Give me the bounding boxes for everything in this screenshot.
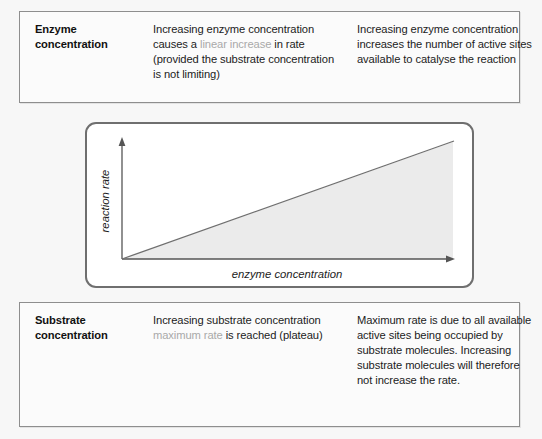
enzyme-title-line-2: concentration bbox=[35, 37, 145, 52]
substrate-concentration-panel: Substrate concentration Increasing subst… bbox=[19, 302, 520, 427]
enzyme-title-line-1: Enzyme bbox=[35, 22, 145, 37]
substrate-title-line-1: Substrate bbox=[35, 313, 145, 328]
enzyme-description-right: Increasing enzyme concentration increase… bbox=[357, 22, 532, 67]
substrate-desc-before: Increasing substrate concentration bbox=[153, 314, 321, 326]
enzyme-description-middle: Increasing enzyme concentration causes a… bbox=[153, 22, 343, 82]
chart-x-axis-label: enzyme concentration bbox=[232, 268, 343, 280]
y-axis-arrow-icon bbox=[119, 137, 126, 146]
panel-inner: Substrate concentration Increasing subst… bbox=[20, 303, 519, 426]
substrate-title-line-2: concentration bbox=[35, 328, 145, 343]
substrate-desc-highlight: maximum rate bbox=[153, 329, 223, 341]
substrate-description-middle: Increasing substrate concentration maxim… bbox=[153, 313, 343, 343]
enzyme-desc-highlight: linear increase bbox=[200, 38, 271, 50]
enzyme-rate-chart: reaction rate enzyme concentration bbox=[87, 124, 472, 286]
enzyme-panel-title: Enzyme concentration bbox=[35, 22, 145, 52]
panel-inner: Enzyme concentration Increasing enzyme c… bbox=[20, 12, 519, 102]
substrate-panel-title: Substrate concentration bbox=[35, 313, 145, 343]
substrate-desc-after: is reached (plateau) bbox=[223, 329, 323, 341]
substrate-description-right: Maximum rate is due to all available act… bbox=[357, 313, 532, 388]
enzyme-rate-chart-card: reaction rate enzyme concentration bbox=[85, 122, 474, 288]
chart-y-axis-label: reaction rate bbox=[99, 170, 111, 233]
enzyme-concentration-panel: Enzyme concentration Increasing enzyme c… bbox=[19, 11, 520, 103]
